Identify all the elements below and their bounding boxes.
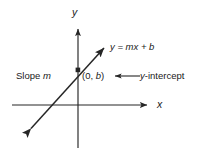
x-axis-label: x [157, 99, 162, 110]
intercept-label-rest: -intercept [145, 70, 185, 81]
equation-label: y = mx + b [110, 42, 154, 52]
point-label-close: ) [101, 70, 104, 81]
point-label-open: (0, [82, 70, 96, 81]
y-intercept-callout-label: y-intercept [140, 71, 184, 81]
plotted-line [31, 48, 104, 129]
slope-label-text: Slope [16, 70, 43, 81]
y-intercept-point-label: (0, b) [82, 71, 104, 81]
y-axis-label: y [72, 7, 77, 18]
slope-label: Slope m [16, 71, 51, 81]
y-intercept-point-marker [76, 68, 81, 73]
line-graph-figure: y x y = mx + b Slope m (0, b) y-intercep… [0, 0, 199, 153]
slope-variable: m [43, 70, 51, 81]
